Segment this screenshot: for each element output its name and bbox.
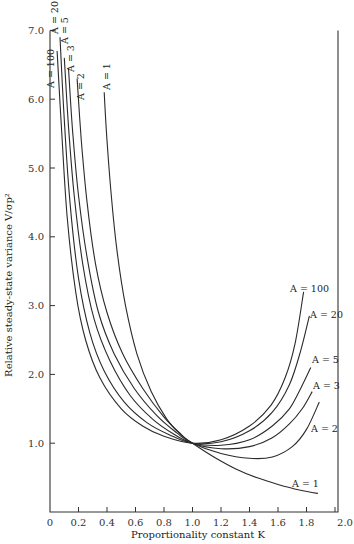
curve-label-top: A = 100: [45, 49, 56, 89]
curves: [57, 37, 319, 493]
curve-label-right: A = 2: [310, 423, 338, 434]
x-tick-label: 0.4: [99, 517, 115, 528]
curve-label-top: A = 1: [101, 63, 112, 91]
y-tick-label: 3.0: [28, 300, 44, 311]
x-axis-ticks: 00.20.40.60.81.01.21.41.61.82.0: [47, 507, 353, 528]
y-tick-label: 1.0: [28, 438, 44, 449]
x-tick-label: 1.2: [213, 517, 229, 528]
curve-label-top: A = 5: [59, 17, 70, 45]
x-tick-label: 2.0: [337, 517, 353, 528]
curve-label-top: A = 3: [65, 45, 76, 73]
axes-frame: [50, 30, 338, 512]
curve-a3: [69, 68, 313, 449]
curve-label-right: A = 3: [312, 380, 340, 391]
curve-labels: A = 100A = 20A = 5A = 3A = 2A = 1A = 100…: [45, 1, 343, 489]
x-tick-label: 1.0: [185, 517, 201, 528]
curve-label-right: A = 100: [289, 283, 329, 294]
curve-a2: [77, 79, 319, 459]
x-tick-label: 0.2: [71, 517, 87, 528]
curve-label-right: A = 20: [309, 309, 343, 320]
y-tick-label: 6.0: [28, 94, 44, 105]
x-tick-label: 0: [47, 517, 53, 528]
y-axis-title: Relative steady-state variance V/σp²: [3, 193, 14, 377]
curve-label-right: A = 1: [291, 478, 319, 489]
y-tick-label: 2.0: [28, 369, 44, 380]
x-tick-label: 1.8: [299, 517, 315, 528]
plot-frame: [50, 30, 338, 512]
chart: 00.20.40.60.81.01.21.41.61.82.0 1.02.03.…: [0, 0, 354, 544]
curve-label-top: A = 2: [75, 73, 86, 101]
x-tick-label: 0.6: [128, 517, 144, 528]
curve-a5: [64, 58, 310, 446]
curve-a100: [57, 51, 304, 443]
curve-label-right: A = 5: [311, 354, 339, 365]
x-axis-title: Proportionality constant K: [131, 529, 265, 540]
y-tick-label: 4.0: [28, 231, 44, 242]
curve-a1: [104, 92, 318, 493]
curve-a20: [60, 37, 309, 443]
y-tick-label: 7.0: [28, 25, 44, 36]
x-tick-label: 0.8: [156, 517, 172, 528]
y-tick-label: 5.0: [28, 163, 44, 174]
x-tick-label: 1.4: [242, 517, 258, 528]
x-tick-label: 1.6: [270, 517, 286, 528]
